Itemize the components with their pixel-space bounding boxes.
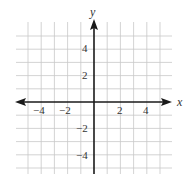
y-axis [90,19,98,174]
x-tick-label: −2 [59,104,71,116]
y-tick-label: 4 [82,42,88,54]
y-axis-label: y [89,5,96,19]
x-tick-label: 2 [117,104,123,116]
x-tick-label: −4 [33,104,45,116]
y-tick-label: −4 [76,149,88,161]
coordinate-plane: x y −4 −2 2 4 4 2 −2 −4 [0,0,194,174]
y-tick-label: 2 [82,69,88,81]
y-tick-label: −2 [76,122,88,134]
x-axis-label: x [176,95,183,109]
x-tick-label: 4 [143,104,149,116]
